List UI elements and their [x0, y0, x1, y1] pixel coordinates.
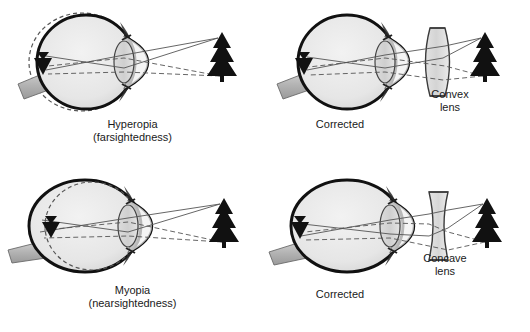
- label-convex-lens-line2: lens: [410, 101, 490, 114]
- crystalline-lens: [118, 205, 138, 247]
- crystalline-lens: [375, 41, 395, 83]
- caption-corrected-myopia-line1: Corrected: [316, 288, 364, 300]
- label-convex-lens-line1: Convex: [431, 88, 468, 100]
- caption-myopia-line1: Myopia: [115, 284, 150, 296]
- panel-corrected-myopia: Concave lens Corrected: [265, 166, 530, 332]
- caption-corrected-hyperopia: Corrected: [275, 118, 405, 131]
- caption-corrected-myopia: Corrected: [275, 288, 405, 301]
- crystalline-lens: [114, 41, 134, 83]
- crystalline-lens: [380, 205, 400, 247]
- caption-hyperopia-line2: (farsightedness): [0, 131, 265, 144]
- caption-hyperopia: Hyperopia (farsightedness): [0, 118, 265, 144]
- tree-object: [209, 198, 239, 248]
- corrected-myopia-illustration: [265, 166, 530, 306]
- label-concave-lens-line1: Concave: [423, 252, 466, 264]
- panel-myopia: Myopia (nearsightedness): [0, 166, 265, 332]
- caption-myopia: Myopia (nearsightedness): [0, 284, 265, 310]
- label-concave-lens: Concave lens: [400, 252, 490, 278]
- label-convex-lens: Convex lens: [410, 88, 490, 114]
- panel-corrected-hyperopia: Convex lens Corrected: [265, 0, 530, 166]
- caption-hyperopia-line1: Hyperopia: [107, 118, 157, 130]
- caption-corrected-hyperopia-line1: Corrected: [316, 118, 364, 130]
- label-concave-lens-line2: lens: [400, 265, 490, 278]
- convex-lens: [426, 28, 450, 96]
- eye-refraction-diagram: Hyperopia (farsightedness): [0, 0, 530, 332]
- caption-myopia-line2: (nearsightedness): [0, 297, 265, 310]
- panel-hyperopia: Hyperopia (farsightedness): [0, 0, 265, 166]
